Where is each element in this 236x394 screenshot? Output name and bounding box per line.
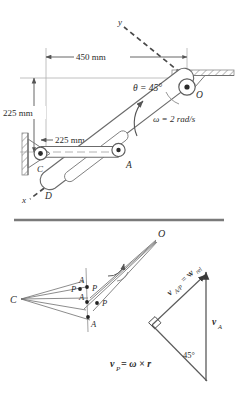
cluster-dot-5 bbox=[86, 315, 90, 319]
cluster-path-line bbox=[86, 268, 88, 332]
slotted-arm-OD bbox=[40, 68, 194, 189]
vp-equation-symbol: v bbox=[110, 358, 115, 369]
lower-point-C-label: C bbox=[10, 294, 17, 305]
cluster-dot-1 bbox=[85, 285, 89, 289]
point-D-label: D bbox=[44, 191, 52, 201]
lower-point-O-label: O bbox=[158, 228, 165, 239]
dimension-450-label: 450 mm bbox=[76, 52, 106, 62]
point-O-label: O bbox=[196, 90, 203, 100]
angular-velocity-label: ω = 2 rad/s bbox=[153, 114, 196, 124]
pin-A-dot bbox=[116, 148, 120, 152]
v-a-label: v bbox=[212, 317, 217, 327]
link-CA bbox=[41, 147, 118, 158]
figure-canvas: y x 450 mm 225 mm bbox=[0, 0, 236, 394]
lower-point-P-top-label: P bbox=[91, 283, 97, 293]
velocity-triangle: v A/P = v v rel v A 45° bbox=[149, 262, 222, 381]
slotted-arm-outline bbox=[40, 68, 194, 189]
pivot-C: C bbox=[34, 147, 47, 174]
v-a-label-group: v A bbox=[212, 317, 222, 330]
cluster-dot-2 bbox=[78, 287, 82, 291]
lower-point-A-top-label: A bbox=[78, 275, 85, 285]
arm-line-3 bbox=[90, 240, 156, 298]
cluster-dot-3 bbox=[85, 300, 89, 304]
vector-v-p bbox=[152, 325, 207, 381]
lower-rotation-arrow bbox=[108, 264, 128, 281]
link-fan-2 bbox=[21, 298, 88, 299]
link-fan-3 bbox=[21, 299, 86, 310]
axis-y-label: y bbox=[117, 17, 122, 27]
pivot-O-dot bbox=[184, 84, 189, 89]
angle-theta-label: θ = 45° bbox=[133, 83, 162, 93]
lower-point-P-left-label: P bbox=[70, 284, 76, 294]
v-rel-subscript: A/P bbox=[172, 283, 184, 295]
v-rel-label-group: v A/P = v v rel bbox=[165, 262, 204, 299]
v-a-subscript: A bbox=[217, 323, 222, 330]
point-A-label: A bbox=[125, 160, 132, 170]
dimension-225-horizontal-label: 225 mm bbox=[55, 135, 85, 145]
dimension-225-vertical-label: 225 mm bbox=[3, 108, 33, 118]
lower-point-A-bottom-label: A bbox=[90, 319, 97, 329]
lower-point-A-mid-label: A bbox=[78, 292, 85, 302]
axis-y-group: y bbox=[117, 17, 187, 78]
mechanism-layout: y x 450 mm 225 mm bbox=[2, 17, 234, 205]
engineering-figure: y x 450 mm 225 mm bbox=[0, 0, 236, 394]
arm-position-lines bbox=[84, 240, 157, 311]
arm-line-1 bbox=[87, 241, 156, 303]
v-rel-subscript-2: rel bbox=[194, 265, 204, 275]
triangle-angle-label: 45° bbox=[183, 350, 195, 360]
vector-v-rel bbox=[152, 275, 205, 325]
link-fan-4 bbox=[21, 299, 90, 320]
vp-equation-group: v P = ω × r bbox=[110, 358, 151, 373]
pivot-C-dot bbox=[38, 151, 43, 156]
link-fan-1 bbox=[21, 287, 86, 299]
point-C-label: C bbox=[37, 164, 44, 174]
lower-point-P-right-label: P bbox=[101, 298, 107, 308]
vp-equation-rest: = ω × r bbox=[121, 358, 151, 369]
cluster-dot-4 bbox=[95, 301, 99, 305]
axis-x-label: x bbox=[21, 195, 26, 205]
arm-line-2 bbox=[84, 242, 156, 309]
velocity-vector-diagram: O C bbox=[10, 228, 222, 381]
support-C-hatch bbox=[22, 133, 28, 175]
